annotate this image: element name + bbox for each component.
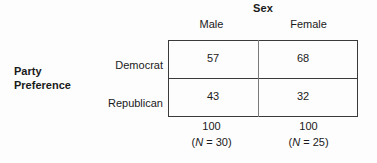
column-variable-title: Sex [168, 2, 358, 14]
table-cell-democrat-female: 68 [258, 52, 348, 64]
sample-size-female-equals: = [300, 136, 313, 148]
column-header-male: Male [164, 18, 259, 30]
sample-size-female: (N = 25) [261, 136, 356, 148]
sample-size-female-symbol: N [292, 136, 300, 148]
table-grid: 57 68 43 32 [168, 40, 358, 117]
row-header-democrat: Democrat [43, 59, 163, 71]
sample-size-male-suffix: ) [228, 136, 232, 148]
column-total-male: 100 [164, 120, 259, 132]
row-header-republican: Republican [43, 97, 163, 109]
sample-size-male: (N = 30) [164, 136, 259, 148]
sample-size-male-symbol: N [195, 136, 203, 148]
contingency-table-figure: Sex Male Female Party Preference Democra… [0, 0, 377, 163]
sample-size-female-suffix: ) [325, 136, 329, 148]
row-variable-title-line2: Preference [14, 78, 71, 92]
grid-line-bottom [168, 116, 358, 117]
sample-size-male-value: 30 [216, 136, 228, 148]
table-cell-democrat-male: 57 [168, 52, 258, 64]
grid-line-top [168, 40, 358, 41]
grid-line-row-divider [168, 78, 358, 79]
table-cell-republican-female: 32 [258, 90, 348, 102]
table-cell-republican-male: 43 [168, 90, 258, 102]
column-total-female: 100 [261, 120, 356, 132]
sample-size-female-value: 25 [313, 136, 325, 148]
column-header-female: Female [261, 18, 356, 30]
grid-line-right [357, 40, 358, 117]
sample-size-male-equals: = [203, 136, 216, 148]
